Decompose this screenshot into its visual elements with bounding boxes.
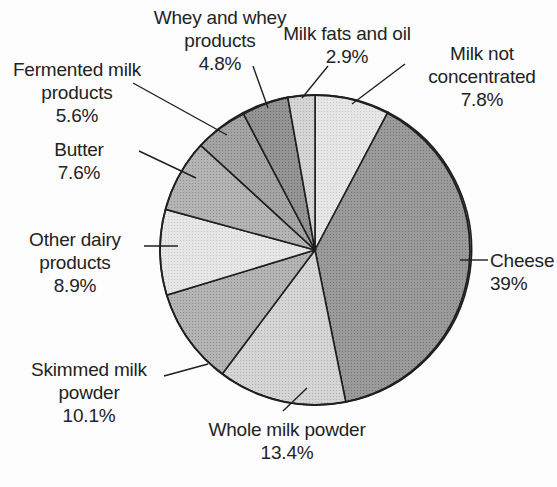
label-milk-fats-and-oil: Milk fats and oil 2.9% (276, 22, 418, 68)
pie-chart-figure: Whey and whey products 4.8% Milk fats an… (0, 0, 557, 487)
label-percent: 2.9% (276, 45, 418, 68)
label-butter: Butter 7.6% (4, 138, 154, 184)
label-other-dairy-products: Other dairy products 8.9% (2, 228, 148, 297)
label-line-1: Milk not (450, 43, 514, 64)
label-line-2: products (184, 30, 255, 51)
label-whole-milk-powder: Whole milk powder 13.4% (192, 418, 382, 464)
label-percent: 5.6% (2, 104, 152, 127)
label-percent: 10.1% (14, 404, 164, 427)
label-percent: 7.8% (412, 88, 552, 111)
label-fermented-milk-products: Fermented milk products 5.6% (2, 58, 152, 127)
leader-line-skimmed (164, 364, 208, 376)
label-percent: 7.6% (4, 161, 154, 184)
label-line-1: Cheese (490, 250, 554, 271)
label-percent: 39% (490, 272, 556, 295)
label-line-2: products (41, 82, 112, 103)
label-line-1: Whole milk powder (208, 419, 365, 440)
label-skimmed-milk-powder: Skimmed milk powder 10.1% (14, 358, 164, 427)
leader-line-milk-fats (302, 66, 328, 98)
label-line-1: Butter (54, 139, 104, 160)
label-line-2: products (39, 252, 110, 273)
label-line-1: Other dairy (29, 229, 121, 250)
leader-line-milk-not-concentrated (352, 64, 405, 104)
label-milk-not-concentrated: Milk not concentrated 7.8% (412, 42, 552, 111)
label-cheese: Cheese 39% (490, 249, 556, 295)
label-line-1: Skimmed milk (31, 359, 147, 380)
label-line-1: Fermented milk (13, 59, 141, 80)
label-percent: 13.4% (192, 441, 382, 464)
label-line-2: concentrated (428, 66, 535, 87)
label-line-1: Milk fats and oil (283, 23, 411, 44)
label-percent: 4.8% (146, 52, 294, 75)
label-whey-and-whey-products: Whey and whey products 4.8% (146, 6, 294, 75)
label-line-1: Whey and whey (154, 7, 287, 28)
label-line-2: powder (58, 382, 119, 403)
label-percent: 8.9% (2, 274, 148, 297)
